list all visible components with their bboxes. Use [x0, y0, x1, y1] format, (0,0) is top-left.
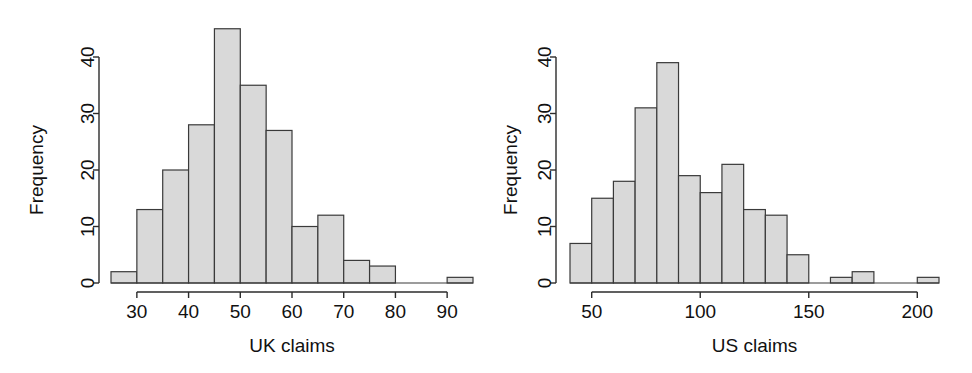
uk-claims-histogram: 010203040Frequency30405060708090UK claim… — [0, 0, 486, 373]
histogram-bar — [370, 266, 396, 283]
histogram-bar — [214, 29, 240, 283]
histogram-bar — [292, 227, 318, 284]
x-axis-tick-label: 50 — [230, 301, 251, 322]
panel-us-claims: 010203040Frequency50100150200US claims — [486, 0, 972, 373]
bars-group — [111, 29, 473, 283]
y-axis-tick-label: 10 — [534, 216, 555, 237]
y-axis: 010203040 — [534, 46, 557, 288]
histogram-bar — [189, 125, 215, 283]
histogram-bar — [447, 277, 473, 283]
histogram-bar — [163, 170, 189, 283]
y-axis: 010203040 — [77, 46, 100, 288]
figure-canvas: 010203040Frequency30405060708090UK claim… — [0, 0, 972, 373]
y-axis-tick-label: 0 — [534, 278, 555, 289]
x-axis-title: US claims — [712, 335, 798, 356]
x-axis-tick-label: 40 — [178, 301, 199, 322]
histogram-bar — [722, 164, 744, 283]
histogram-bar — [852, 272, 874, 283]
panel-uk-claims: 010203040Frequency30405060708090UK claim… — [0, 0, 486, 373]
x-axis-tick-label: 30 — [126, 301, 147, 322]
histogram-bar — [613, 181, 635, 283]
histogram-bar — [111, 272, 137, 283]
histogram-bar — [318, 215, 344, 283]
us-claims-histogram: 010203040Frequency50100150200US claims — [486, 0, 972, 373]
x-axis-tick-label: 80 — [385, 301, 406, 322]
x-axis-tick-label: 50 — [581, 301, 602, 322]
y-axis-tick-label: 40 — [77, 46, 98, 67]
histogram-bar — [765, 215, 787, 283]
y-axis-tick-label: 20 — [77, 159, 98, 180]
y-axis-tick-label: 30 — [77, 103, 98, 124]
histogram-bar — [635, 108, 657, 283]
histogram-bar — [137, 210, 163, 283]
histogram-bar — [592, 198, 614, 283]
x-axis-tick-label: 60 — [281, 301, 302, 322]
histogram-bar — [240, 85, 266, 283]
x-axis: 30405060708090 — [126, 292, 457, 322]
histogram-bar — [570, 243, 592, 283]
histogram-bar — [700, 193, 722, 283]
histogram-bar — [917, 277, 939, 283]
bars-group — [570, 63, 939, 283]
x-axis-title: UK claims — [249, 335, 335, 356]
y-axis-title: Frequency — [500, 125, 521, 215]
x-axis-tick-label: 90 — [437, 301, 458, 322]
histogram-bar — [787, 255, 809, 283]
histogram-bar — [744, 210, 766, 283]
x-axis: 50100150200 — [581, 292, 933, 322]
x-axis-tick-label: 200 — [901, 301, 933, 322]
histogram-bar — [830, 277, 852, 283]
y-axis-tick-label: 30 — [534, 103, 555, 124]
histogram-bar — [679, 176, 701, 283]
x-axis-tick-label: 100 — [684, 301, 716, 322]
y-axis-tick-label: 40 — [534, 46, 555, 67]
y-axis-title: Frequency — [26, 125, 47, 215]
x-axis-tick-label: 70 — [333, 301, 354, 322]
histogram-bar — [266, 130, 292, 283]
x-axis-tick-label: 150 — [793, 301, 825, 322]
y-axis-tick-label: 20 — [534, 159, 555, 180]
histogram-bar — [657, 63, 679, 283]
y-axis-tick-label: 0 — [77, 278, 98, 289]
y-axis-tick-label: 10 — [77, 216, 98, 237]
histogram-bar — [344, 260, 370, 283]
